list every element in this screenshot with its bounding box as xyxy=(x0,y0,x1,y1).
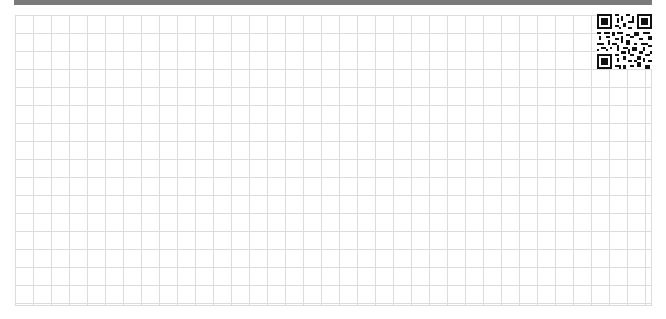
qr-code-icon xyxy=(597,14,652,69)
grid-paper xyxy=(15,15,652,306)
top-bar xyxy=(14,0,652,5)
